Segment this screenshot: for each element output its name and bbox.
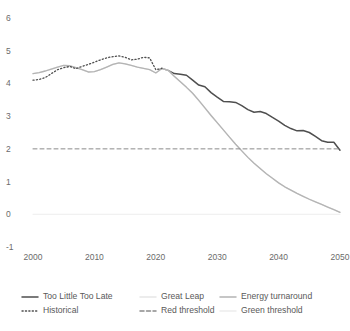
x-tick-2000: 2000 (24, 252, 43, 262)
legend-label-red-threshold: Red threshold (161, 305, 215, 315)
legend-label-green-threshold: Green threshold (241, 305, 303, 315)
line-chart: 6543210-1 200020102020203020402050 Too L… (0, 0, 350, 331)
legend-item-too-little-too-late[interactable]: Too Little Too Late (22, 291, 113, 301)
y-tick-neg1: -1 (6, 242, 14, 252)
series-great-leap (33, 63, 340, 213)
legend-label-great-leap: Great Leap (161, 291, 204, 301)
legend-item-red-threshold[interactable]: Red threshold (140, 305, 215, 315)
legend-label-historical: Historical (43, 305, 78, 315)
x-tick-2040: 2040 (269, 252, 288, 262)
y-tick-6: 6 (6, 13, 11, 23)
y-tick-5: 5 (6, 46, 11, 56)
series-layer (33, 56, 340, 214)
x-tick-2020: 2020 (146, 252, 165, 262)
y-tick-3: 3 (6, 111, 11, 121)
legend-item-energy-turnaround[interactable]: Energy turnaround (220, 291, 312, 301)
series-energy-turnaround (33, 63, 340, 213)
y-tick-1: 1 (6, 177, 11, 187)
x-tick-2010: 2010 (85, 252, 104, 262)
chart-canvas: 6543210-1 200020102020203020402050 Too L… (0, 0, 350, 331)
y-axis-tick-labels: 6543210-1 (6, 13, 14, 252)
y-tick-4: 4 (6, 78, 11, 88)
legend-item-great-leap[interactable]: Great Leap (140, 291, 204, 301)
y-tick-0: 0 (6, 209, 11, 219)
x-tick-2050: 2050 (331, 252, 350, 262)
y-tick-2: 2 (6, 144, 11, 154)
x-axis-tick-labels: 200020102020203020402050 (24, 252, 350, 262)
legend-item-historical[interactable]: Historical (22, 305, 78, 315)
chart-legend: Too Little Too LateGreat LeapEnergy turn… (22, 291, 312, 315)
legend-label-energy-turnaround: Energy turnaround (241, 291, 312, 301)
x-tick-2030: 2030 (208, 252, 227, 262)
legend-label-too-little-too-late: Too Little Too Late (43, 291, 113, 301)
legend-item-green-threshold[interactable]: Green threshold (220, 305, 303, 315)
series-too-little-too-late (162, 68, 340, 150)
